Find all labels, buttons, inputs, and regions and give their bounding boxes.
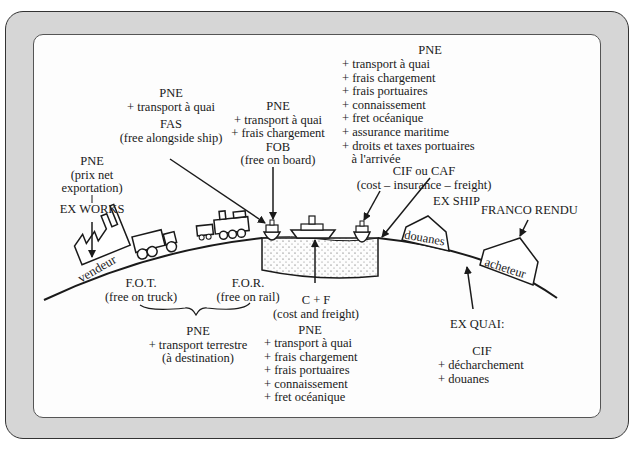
cif-lines: + transport à quai + frais chargement + …: [342, 58, 475, 167]
ex-quai-code: EX QUAI:: [450, 318, 505, 332]
arrow-fas: [170, 159, 265, 223]
ship-center-icon: [291, 216, 335, 238]
ex-works-code: EX WORKS: [52, 203, 132, 217]
cf-lines: + transport à quai + frais chargement + …: [264, 337, 358, 405]
train-icon: [195, 209, 250, 242]
ex-quai-header: CIF: [462, 345, 502, 359]
brace: [140, 303, 250, 315]
ex-ship-code: EX SHIP: [433, 195, 480, 209]
cif-code-block: CIF ou CAF (cost – insurance – freight): [340, 165, 508, 192]
fob-block: PNE + transport à quai + frais chargemen…: [226, 100, 330, 168]
franco-rendu-code: FRANCO RENDU: [481, 204, 578, 218]
truck-icon: [132, 227, 179, 260]
land-transport-block: PNE + transport terrestre (à destination…: [138, 325, 258, 366]
ex-works-block: PNE (prix net exportation): [56, 155, 128, 196]
sea-basin: [262, 238, 378, 278]
fas-block: PNE + transport à quai FAS (free alongsi…: [112, 87, 230, 145]
cf-code-block: C + F (cost and freight): [262, 294, 370, 321]
ship-fob-icon: [264, 220, 280, 240]
arrow-ex-quai: [467, 267, 473, 309]
arrow-franco-rendu: [520, 220, 528, 236]
cif-header: PNE: [400, 44, 460, 58]
ex-quai-lines: + décharchement + douanes: [438, 359, 524, 386]
arrow-cif: [364, 191, 380, 220]
fot-block: F.O.T. (free on truck): [98, 277, 184, 304]
